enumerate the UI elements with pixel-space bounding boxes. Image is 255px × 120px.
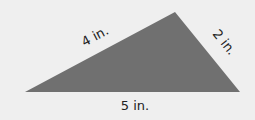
side-label-bottom: 5 in.: [121, 98, 149, 113]
side-label-right: 2 in.: [210, 26, 240, 58]
triangle: [25, 12, 240, 92]
triangle-diagram: 4 in. 2 in. 5 in.: [0, 0, 255, 120]
side-label-left: 4 in.: [79, 23, 111, 50]
